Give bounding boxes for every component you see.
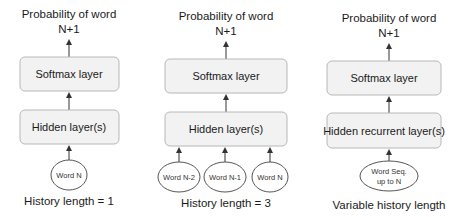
input-label: Word N-2: [163, 173, 195, 182]
language-model-diagram: Probability of word N+1 Softmax layer Hi…: [0, 0, 471, 217]
panel-history-3: Probability of word N+1 Softmax layer Hi…: [158, 10, 288, 209]
output-title: Probability of word: [179, 10, 274, 22]
input-node: [360, 161, 418, 191]
input-label-line1: Word Seq.: [371, 167, 406, 176]
panel-history-1: Probability of word N+1 Softmax layer Hi…: [20, 8, 119, 207]
output-title: Probability of word: [342, 12, 437, 24]
panel-variable-history: Probability of word N+1 Softmax layer Hi…: [323, 12, 445, 211]
softmax-label: Softmax layer: [350, 72, 418, 84]
hidden-label: Hidden recurrent layer(s): [323, 125, 445, 137]
output-title-n1: N+1: [58, 23, 79, 35]
hidden-label: Hidden layer(s): [32, 121, 107, 133]
input-label: Word N-1: [209, 173, 241, 182]
input-label: Word N: [257, 173, 282, 182]
input-label: Word N: [56, 171, 81, 180]
hidden-label: Hidden layer(s): [189, 123, 264, 135]
caption: History length = 1: [24, 195, 114, 207]
output-title: Probability of word: [22, 8, 117, 20]
output-title-n1: N+1: [215, 25, 236, 37]
softmax-label: Softmax layer: [35, 68, 103, 80]
caption: Variable history length: [333, 199, 446, 211]
softmax-label: Softmax layer: [192, 70, 260, 82]
input-label-line2: up to N: [377, 177, 401, 186]
caption: History length = 3: [181, 197, 271, 209]
output-title-n1: N+1: [378, 27, 399, 39]
